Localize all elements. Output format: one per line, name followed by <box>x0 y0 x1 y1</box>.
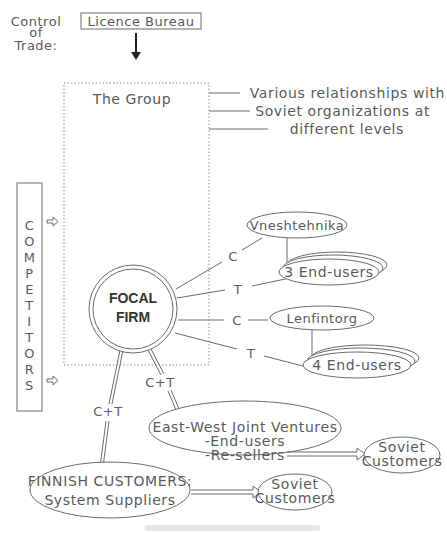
competitors-letter: O <box>24 346 35 361</box>
competitors-letter: R <box>25 362 35 377</box>
lenfintorg-label: Lenfintorg <box>286 311 357 326</box>
link-lines <box>175 237 312 366</box>
competitors-letter: E <box>25 282 34 297</box>
finnish-customers-title: FINNISH CUSTOMERS: <box>28 473 193 489</box>
competitors-letter: O <box>24 234 35 249</box>
competitors-letter: M <box>24 250 36 265</box>
competitors-letter: I <box>27 314 31 329</box>
competitors-letter: C <box>25 218 35 233</box>
competitors-letter: P <box>25 266 33 281</box>
link-label-t: T <box>246 346 255 361</box>
licence-bureau-label: Licence Bureau <box>88 14 195 29</box>
illegible-caption <box>145 525 320 531</box>
down-arrow-icon <box>131 33 141 60</box>
finnish-to-soviet-arrow-icon <box>191 486 261 498</box>
link-label-ct: C+T <box>145 375 174 390</box>
link-label-t: T <box>233 282 242 297</box>
lenfintorg-node: Lenfintorg <box>270 306 374 330</box>
competitor-arrow-icon <box>47 217 58 226</box>
soviet-customers-fin-node: Soviet Customers <box>255 474 336 510</box>
note-line-1: Various relationships with <box>250 85 445 101</box>
end-users-4-node: 4 End-users <box>303 345 419 378</box>
focal-firm-label-line-1: FOCAL <box>109 290 158 306</box>
competitor-arrow-icon <box>47 376 58 385</box>
joint-ventures-node: East-West Joint Ventures -End-users -Re-… <box>149 401 341 463</box>
relationships-note: Various relationships with Soviet organi… <box>250 85 445 137</box>
finnish-customers-subtitle: System Suppliers <box>44 492 175 508</box>
control-of-trade-label: Control of Trade: <box>11 14 62 53</box>
focal-firm-network-diagram: Control of Trade: Licence Bureau The Gro… <box>0 0 447 533</box>
licence-bureau-box: Licence Bureau <box>81 13 201 29</box>
competitors-letter: T <box>24 330 33 345</box>
note-line-2: Soviet organizations at <box>255 103 430 119</box>
end-users-4-label: 4 End-users <box>312 357 401 373</box>
vneshtehnika-node: Vneshtehnika <box>247 212 347 238</box>
competitors-letter: S <box>25 378 34 393</box>
end-users-3-label: 3 End-users <box>284 264 373 280</box>
soviet-customers-jv-node: Soviet Customers <box>362 437 443 473</box>
competitors-letter: T <box>24 298 33 313</box>
finnish-customers-node: FINNISH CUSTOMERS: System Suppliers <box>28 462 193 518</box>
end-users-3-node: 3 End-users <box>279 252 387 285</box>
link-label-c: C <box>232 313 242 328</box>
focal-firm-node: FOCAL FIRM <box>89 265 177 353</box>
link-label-ct: C+T <box>93 404 122 419</box>
the-group-title: The Group <box>92 91 172 107</box>
control-label-line-3: Trade: <box>14 38 58 53</box>
soviet-customers-jv-line-2: Customers <box>362 453 443 469</box>
focal-firm-label-line-2: FIRM <box>116 309 150 325</box>
joint-ventures-re-sellers: -Re-sellers <box>205 447 285 463</box>
vneshtehnika-label: Vneshtehnika <box>250 218 345 233</box>
link-label-c: C <box>228 249 238 264</box>
competitors-box: C O M P E T I T O R S <box>17 183 42 411</box>
note-line-3: different levels <box>290 121 404 137</box>
soviet-customers-fin-line-2: Customers <box>255 490 336 506</box>
